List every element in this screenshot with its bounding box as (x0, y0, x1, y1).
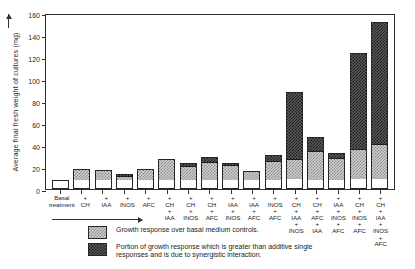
bar-segment-syn (287, 93, 302, 160)
plot-area: 020406080100120140160 (45, 14, 395, 190)
bar-segment-resp (159, 160, 174, 179)
bar[interactable] (222, 163, 239, 189)
figure: Average final fresh weight of cultures (… (0, 0, 415, 269)
treatment-direction-arrow-icon (52, 219, 142, 220)
bar-slot (241, 15, 262, 189)
bar[interactable] (265, 155, 282, 189)
bar-slot (220, 15, 241, 189)
y-axis-tick-label: 100 (28, 78, 40, 85)
bar-segment-syn (308, 138, 323, 152)
legend-label-synergy: Portion of growth response which is grea… (116, 243, 313, 260)
bar[interactable] (328, 153, 345, 189)
bar-segment-resp (244, 172, 259, 180)
y-axis-tick-label: 140 (28, 34, 40, 41)
bar-slot (199, 15, 220, 189)
x-axis-ticks (45, 190, 395, 194)
bar[interactable] (158, 159, 175, 189)
bar-segment-resp (287, 160, 302, 179)
bar-segment-resp (202, 163, 217, 179)
bar[interactable] (307, 137, 324, 189)
bar[interactable] (350, 53, 367, 189)
y-axis-tick-label: 60 (32, 122, 40, 129)
bar-segment-basal (202, 180, 217, 188)
bar-segment-basal (351, 179, 366, 188)
bar-segment-basal (96, 180, 111, 188)
legend-item-response: Growth response over basal medium contro… (88, 226, 408, 239)
y-axis-tick-label: 20 (32, 166, 40, 173)
bar[interactable] (371, 22, 388, 189)
bar-segment-resp (351, 150, 366, 179)
bar-slot (284, 15, 305, 189)
y-axis-arrow-icon (8, 14, 9, 28)
bar-slot (178, 15, 199, 189)
bar-segment-basal (372, 179, 387, 188)
bar-slot (326, 15, 347, 189)
bar-slot (369, 15, 390, 189)
bar-segment-basal (308, 180, 323, 188)
x-axis-tick (81, 190, 82, 194)
bar-segment-basal (117, 180, 132, 188)
bar-slot (348, 15, 369, 189)
y-axis-tick-label: 0 (36, 188, 40, 195)
bar[interactable] (243, 171, 260, 189)
bar[interactable] (95, 170, 112, 189)
bar-slot (156, 15, 177, 189)
y-axis-title: Average final fresh weight of cultures (… (12, 14, 20, 190)
bar[interactable] (73, 169, 90, 189)
bar-segment-syn (351, 54, 366, 150)
bar[interactable] (116, 174, 133, 189)
bar-slot (93, 15, 114, 189)
bar-segment-resp (223, 166, 238, 180)
bar[interactable] (137, 169, 154, 189)
bar-segment-basal (159, 180, 174, 188)
legend-swatch-response-icon (88, 226, 107, 239)
bar-segment-basal (244, 180, 259, 188)
bar-segment-resp (138, 170, 153, 180)
y-axis-tick-label: 120 (28, 56, 40, 63)
bar-segment-basal (223, 180, 238, 188)
legend-swatch-synergy-icon (88, 243, 107, 256)
bar-slot (50, 15, 71, 189)
bar[interactable] (180, 163, 197, 189)
x-axis-tick (102, 190, 103, 194)
bar-segment-syn (372, 23, 387, 145)
bar-segment-basal (287, 179, 302, 188)
bar-segment-basal (138, 180, 153, 188)
bar[interactable] (286, 92, 303, 189)
legend-item-synergy: Portion of growth response which is grea… (88, 243, 408, 260)
y-axis-tick-label: 40 (32, 144, 40, 151)
bar-segment-resp (181, 167, 196, 180)
bar-segment-resp (329, 159, 344, 180)
legend: Growth response over basal medium contro… (88, 226, 408, 264)
bar-segment-basal (53, 181, 68, 188)
bar-slot (263, 15, 284, 189)
legend-label-response: Growth response over basal medium contro… (116, 226, 259, 234)
bar-segment-resp (74, 170, 89, 180)
bar-segment-resp (96, 171, 111, 180)
bar-segment-resp (308, 152, 323, 179)
bar-segment-basal (74, 180, 89, 188)
bar-segment-resp (266, 162, 281, 180)
bar[interactable] (201, 157, 218, 189)
bar-slot (114, 15, 135, 189)
bar-segment-resp (372, 145, 387, 180)
y-axis-tick-label: 80 (32, 100, 40, 107)
bar-slot (135, 15, 156, 189)
bar-segment-basal (266, 180, 281, 188)
y-axis-tick-label: 160 (28, 12, 40, 19)
bar-group (46, 15, 394, 189)
x-axis-label: Basal treatment (49, 195, 75, 248)
x-axis-tick (124, 190, 125, 194)
bar-segment-basal (181, 180, 196, 188)
bar[interactable] (52, 180, 69, 189)
bar-slot (71, 15, 92, 189)
bar-slot (305, 15, 326, 189)
bar-segment-basal (329, 180, 344, 188)
